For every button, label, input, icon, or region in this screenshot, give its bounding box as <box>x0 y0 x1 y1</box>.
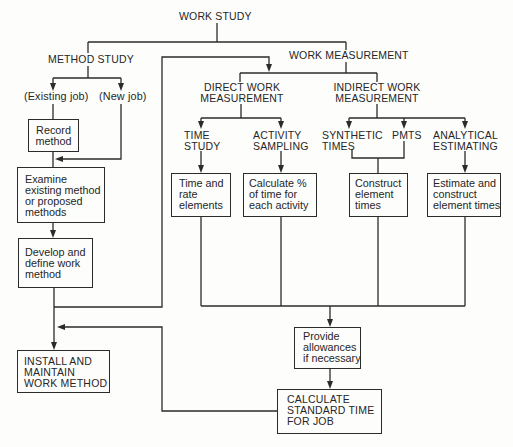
activity-sampling-label: ACTIVITY SAMPLING <box>253 130 308 152</box>
arrow-down-icon <box>51 342 57 350</box>
arrow-down-icon <box>346 121 352 129</box>
arrow-down-icon <box>327 381 333 389</box>
arrow-left-icon <box>57 324 65 330</box>
develop-method-box: Develop and define work method <box>18 238 93 288</box>
arrow-down-icon <box>50 230 56 238</box>
pmts-label: PMTS <box>392 130 422 141</box>
existing-job-label: (Existing job) <box>24 91 89 102</box>
arrow-left-icon <box>55 156 63 162</box>
new-job-label: (New job) <box>99 91 147 102</box>
arrow-down-icon <box>266 64 272 72</box>
arrow-down-icon <box>462 165 468 173</box>
direct-work-measurement-label: DIRECT WORK MEASUREMENT <box>196 82 288 104</box>
calculate-standard-time-box: CALCULATE STANDARD TIME FOR JOB <box>277 389 382 434</box>
analytical-estimating-label: ANALYTICAL ESTIMATING <box>433 130 498 152</box>
method-study-label: METHOD STUDY <box>48 54 134 65</box>
indirect-work-measurement-label: INDIRECT WORK MEASUREMENT <box>331 82 423 104</box>
arrow-down-icon <box>198 121 204 129</box>
synthetic-times-label: SYNTHETIC TIMES <box>322 130 383 152</box>
estimate-construct-box: Estimate and construct element times <box>427 173 501 217</box>
arrow-down-icon <box>278 165 284 173</box>
work-measurement-label: WORK MEASUREMENT <box>289 50 409 61</box>
work-study-title: WORK STUDY <box>179 11 252 22</box>
arrow-down-icon <box>278 121 284 129</box>
calculate-percent-box: Calculate % of time for each activity <box>243 173 317 217</box>
arrow-down-icon <box>327 319 333 327</box>
install-maintain-box: INSTALL AND MAINTAIN WORK METHOD <box>17 350 110 393</box>
arrow-down-icon <box>198 165 204 173</box>
provide-allowances-box: Provide allowances if necessary <box>294 327 361 369</box>
construct-element-times-box: Construct element times <box>349 173 408 217</box>
time-study-label: TIME STUDY <box>184 130 220 152</box>
examine-method-box: Examine existing method or proposed meth… <box>17 167 105 223</box>
arrow-down-icon <box>462 121 468 129</box>
arrow-down-icon <box>401 121 407 129</box>
time-rate-elements-box: Time and rate elements <box>171 173 231 217</box>
record-method-box: Record method <box>28 119 79 152</box>
